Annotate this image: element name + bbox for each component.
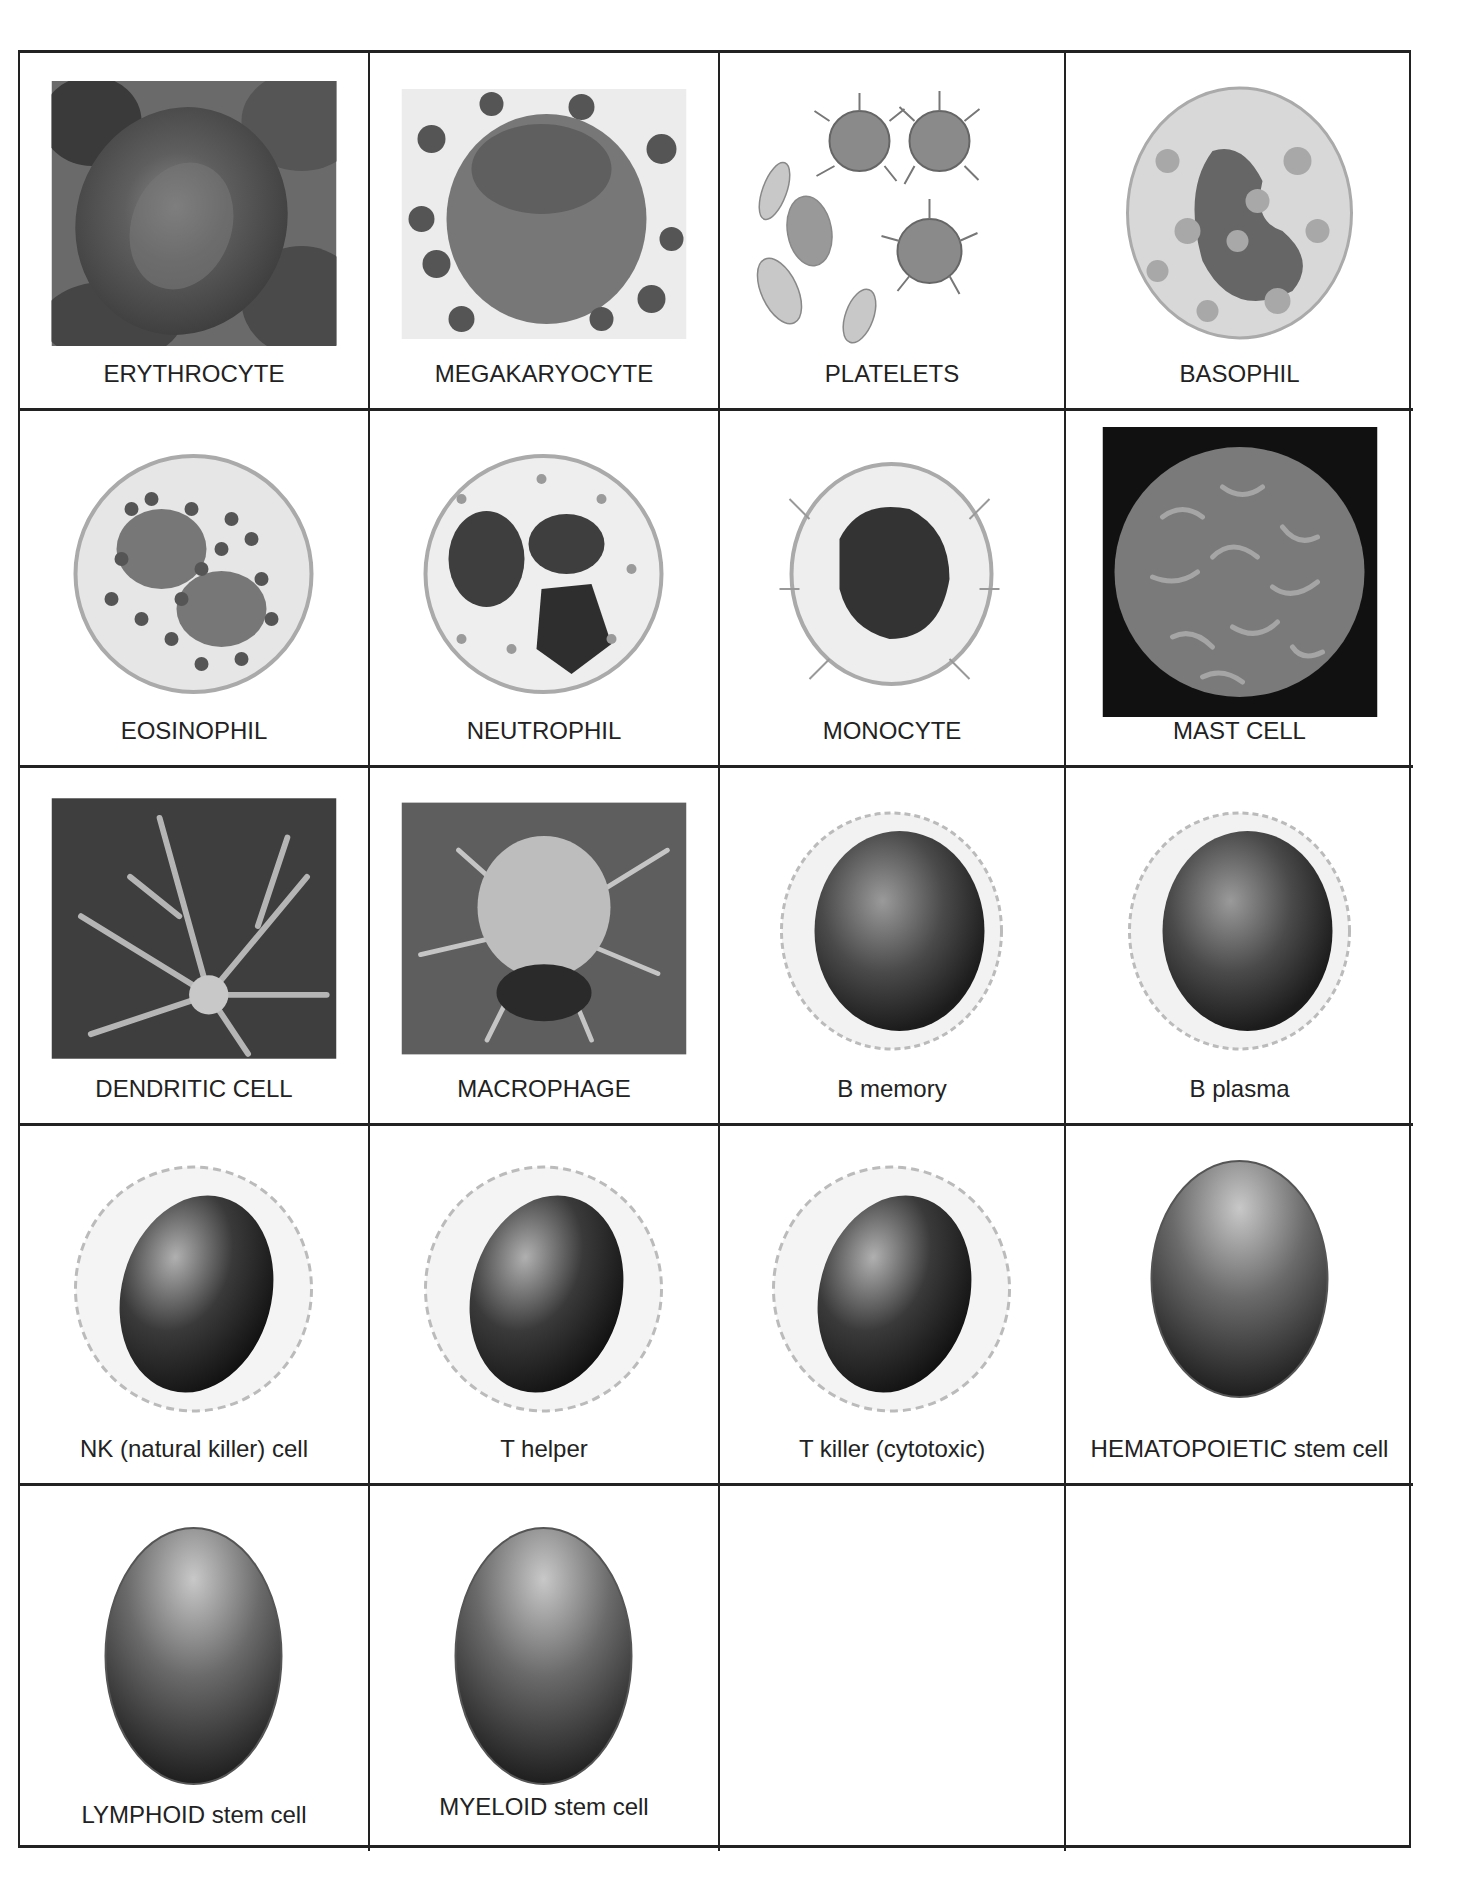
nk-cell-image-icon (52, 1154, 337, 1419)
cell-label: MONOCYTE (720, 717, 1064, 745)
cell-neutrophil: NEUTROPHIL (370, 411, 720, 768)
cell-label: BASOPHIL (1066, 360, 1413, 388)
cell-eosinophil: EOSINOPHIL (20, 411, 370, 768)
cell-label: MAST CELL (1066, 717, 1413, 745)
cell-label: MEGAKARYOCYTE (370, 360, 718, 388)
megakaryocyte-image-icon (402, 81, 687, 346)
cell-b-plasma: B plasma (1066, 768, 1413, 1126)
cell-label: PLATELETS (720, 360, 1064, 388)
cell-label: T helper (370, 1435, 718, 1463)
cell-lymphoid-stem-cell: LYMPHOID stem cell (20, 1486, 370, 1851)
t-killer-image-icon (750, 1154, 1035, 1419)
cell-label: B memory (720, 1075, 1064, 1103)
cell-label: LYMPHOID stem cell (20, 1801, 368, 1829)
cell-label: DENDRITIC CELL (20, 1075, 368, 1103)
cell-grid: ERYTHROCYTE MEGAKARYOCYTE PLATELETS BASO… (18, 50, 1411, 1848)
cell-monocyte: MONOCYTE (720, 411, 1066, 768)
cell-mast-cell: MAST CELL (1066, 411, 1413, 768)
hematopoietic-stem-cell-image-icon (1097, 1154, 1382, 1419)
cell-hematopoietic-stem-cell: HEMATOPOIETIC stem cell (1066, 1126, 1413, 1486)
cell-label: MACROPHAGE (370, 1075, 718, 1103)
cell-empty (720, 1486, 1066, 1851)
cell-platelets: PLATELETS (720, 53, 1066, 411)
cell-basophil: BASOPHIL (1066, 53, 1413, 411)
cell-types-worksheet: ERYTHROCYTE MEGAKARYOCYTE PLATELETS BASO… (18, 50, 1411, 1848)
cell-label: NEUTROPHIL (370, 717, 718, 745)
cell-t-killer: T killer (cytotoxic) (720, 1126, 1066, 1486)
cell-erythrocyte: ERYTHROCYTE (20, 53, 370, 411)
cell-macrophage: MACROPHAGE (370, 768, 720, 1126)
mast-cell-image-icon (1097, 439, 1382, 704)
b-plasma-image-icon (1097, 796, 1382, 1061)
cell-label: ERYTHROCYTE (20, 360, 368, 388)
t-helper-image-icon (402, 1154, 687, 1419)
cell-label: MYELOID stem cell (370, 1793, 718, 1821)
eosinophil-image-icon (52, 439, 337, 704)
neutrophil-image-icon (402, 439, 687, 704)
cell-t-helper: T helper (370, 1126, 720, 1486)
cell-label: T killer (cytotoxic) (720, 1435, 1064, 1463)
monocyte-image-icon (750, 439, 1035, 704)
cell-label: EOSINOPHIL (20, 717, 368, 745)
myeloid-stem-cell-image-icon (402, 1524, 687, 1789)
platelets-image-icon (750, 81, 1035, 346)
cell-dendritic-cell: DENDRITIC CELL (20, 768, 370, 1126)
cell-nk-cell: NK (natural killer) cell (20, 1126, 370, 1486)
basophil-image-icon (1097, 81, 1382, 346)
cell-label: HEMATOPOIETIC stem cell (1066, 1435, 1413, 1463)
b-memory-image-icon (750, 796, 1035, 1061)
macrophage-image-icon (402, 796, 687, 1061)
cell-label: NK (natural killer) cell (20, 1435, 368, 1463)
erythrocyte-image-icon (52, 81, 337, 346)
lymphoid-stem-cell-image-icon (52, 1524, 337, 1789)
cell-megakaryocyte: MEGAKARYOCYTE (370, 53, 720, 411)
cell-b-memory: B memory (720, 768, 1066, 1126)
cell-label: B plasma (1066, 1075, 1413, 1103)
cell-myeloid-stem-cell: MYELOID stem cell (370, 1486, 720, 1851)
cell-empty (1066, 1486, 1413, 1851)
dendritic-cell-image-icon (52, 796, 337, 1061)
